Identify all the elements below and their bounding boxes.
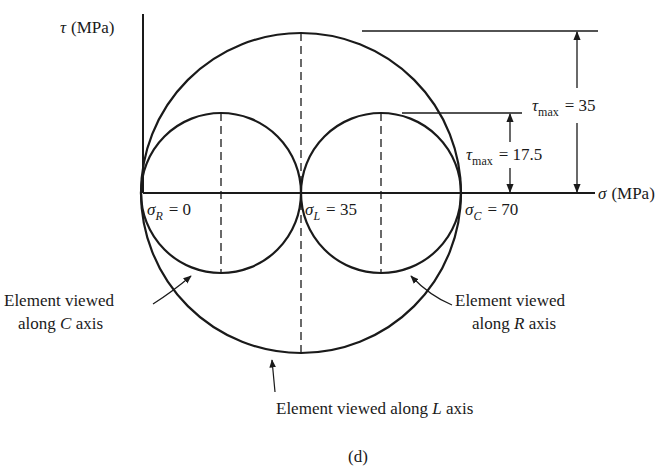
tau-max-35-label: τmax= 35 (532, 96, 596, 119)
annotation-c-axis-arrow (153, 276, 191, 304)
annotation-r-axis-line1: Element viewed (455, 291, 565, 310)
annotation-l-axis-arrow (272, 360, 275, 392)
sigma-c-label: σC= 70 (465, 200, 518, 223)
figure-caption: (d) (348, 447, 368, 466)
annotation-r-axis-arrow (411, 276, 452, 305)
sigma-l-label: σL= 35 (305, 200, 357, 223)
annotation-c-axis-line1: Element viewed (4, 291, 114, 310)
tau-max-17-label: τmax= 17.5 (466, 145, 542, 168)
mohr-circle-diagram: τ(MPa) σ(MPa) τmax= 35 τmax= 17.5 σR= 0 … (0, 0, 670, 467)
sigma-r-label: σR= 0 (147, 200, 191, 223)
annotation-l-axis: Element viewed along L axis (276, 399, 473, 418)
annotation-c-axis-line2: along C axis (18, 314, 103, 333)
tau-axis-label: τ(MPa) (60, 18, 115, 37)
sigma-axis-label: σ(MPa) (598, 184, 655, 203)
annotation-r-axis-line2: along R axis (472, 314, 556, 333)
